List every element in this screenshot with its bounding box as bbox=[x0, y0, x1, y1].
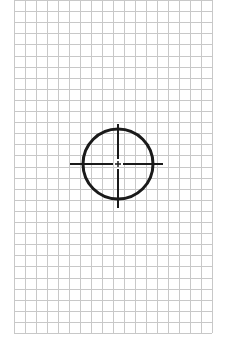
crosshair-target-icon bbox=[70, 124, 163, 208]
grid-diagram bbox=[0, 0, 226, 344]
grid-lines bbox=[14, 0, 213, 334]
